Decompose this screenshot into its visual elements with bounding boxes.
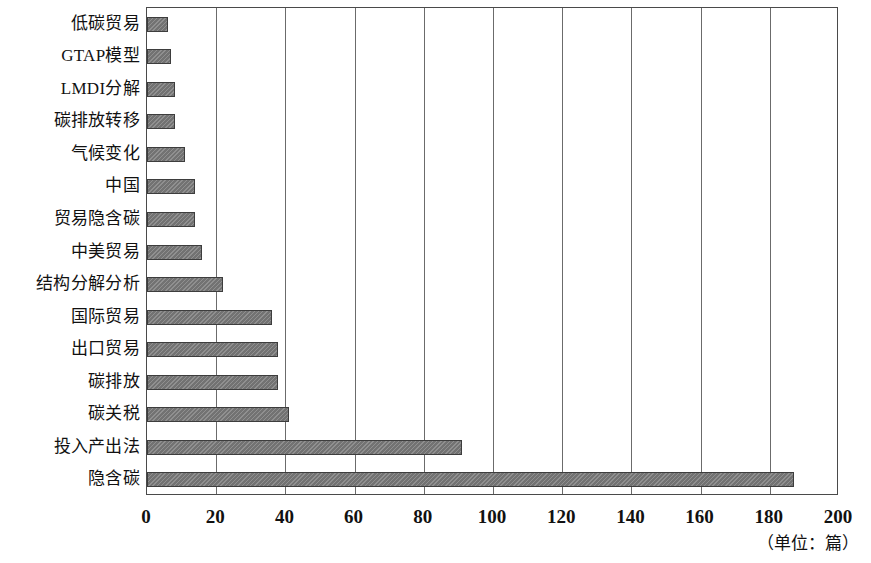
- x-tick-label: 80: [413, 505, 432, 529]
- bar: [147, 82, 175, 97]
- bar: [147, 310, 272, 325]
- category-label: 碳关税: [0, 404, 140, 423]
- category-label: GTAP模型: [0, 46, 140, 65]
- x-tick-label: 60: [344, 505, 363, 529]
- bar: [147, 472, 794, 487]
- bar: [147, 440, 462, 455]
- category-label: 碳排放转移: [0, 111, 140, 130]
- x-tick-label: 140: [616, 505, 645, 529]
- x-axis-tick-labels: 020406080100120140160180200: [0, 505, 871, 535]
- keyword-frequency-bar-chart: 低碳贸易GTAP模型LMDI分解碳排放转移气候变化中国贸易隐含碳中美贸易结构分解…: [0, 0, 871, 563]
- x-tick-label: 160: [685, 505, 714, 529]
- bar: [147, 407, 289, 422]
- x-tick-label: 120: [547, 505, 576, 529]
- category-label: 中国: [0, 176, 140, 195]
- bar: [147, 49, 171, 64]
- bar: [147, 179, 195, 194]
- x-tick-label: 180: [755, 505, 784, 529]
- bar: [147, 342, 278, 357]
- category-label: 隐含碳: [0, 469, 140, 488]
- category-label: 低碳贸易: [0, 14, 140, 33]
- category-label: 气候变化: [0, 144, 140, 163]
- category-label: 结构分解分析: [0, 274, 140, 293]
- bar: [147, 17, 168, 32]
- x-tick-label: 20: [206, 505, 225, 529]
- x-tick-label: 0: [141, 505, 151, 529]
- bar: [147, 245, 202, 260]
- bars-layer: [147, 8, 837, 494]
- category-label: 贸易隐含碳: [0, 209, 140, 228]
- bar: [147, 147, 185, 162]
- bar: [147, 114, 175, 129]
- x-tick-label: 200: [824, 505, 853, 529]
- category-label: LMDI分解: [0, 79, 140, 98]
- category-label: 投入产出法: [0, 437, 140, 456]
- bar: [147, 212, 195, 227]
- bar: [147, 277, 223, 292]
- bar: [147, 375, 278, 390]
- unit-annotation: （单位：篇）: [757, 533, 859, 555]
- category-label: 碳排放: [0, 372, 140, 391]
- plot-area: [146, 7, 838, 495]
- category-label: 中美贸易: [0, 242, 140, 261]
- x-tick-label: 40: [275, 505, 294, 529]
- category-label: 国际贸易: [0, 307, 140, 326]
- x-tick-label: 100: [478, 505, 507, 529]
- category-axis-labels: 低碳贸易GTAP模型LMDI分解碳排放转移气候变化中国贸易隐含碳中美贸易结构分解…: [0, 7, 140, 495]
- category-label: 出口贸易: [0, 339, 140, 358]
